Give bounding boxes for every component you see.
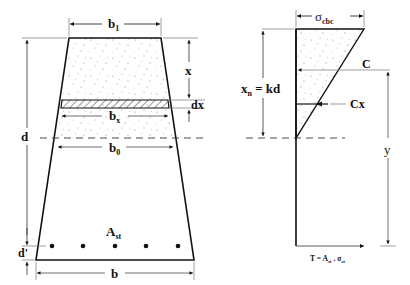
rebar-dot bbox=[113, 244, 118, 249]
stress-diagram: σcbc xn = kd C Cx y T = Ast . σst bbox=[241, 9, 396, 264]
label-y: y bbox=[384, 142, 391, 157]
label-xn-kd: xn = kd bbox=[241, 81, 281, 98]
label-dx: dx bbox=[191, 98, 204, 112]
label-c: C bbox=[362, 57, 371, 71]
label-b1: b1 bbox=[108, 16, 119, 33]
label-d: d bbox=[21, 129, 29, 144]
label-b0: b0 bbox=[109, 140, 120, 157]
rebar-dot bbox=[50, 244, 55, 249]
label-cx: Cx bbox=[350, 97, 365, 111]
label-b: b bbox=[111, 266, 118, 281]
label-tension: T = Ast . σst bbox=[310, 254, 345, 264]
rebar-dot bbox=[81, 244, 86, 249]
rebar-dot bbox=[144, 244, 149, 249]
compression-zone bbox=[57, 38, 173, 138]
stress-triangle bbox=[296, 29, 364, 138]
rebar-group bbox=[50, 244, 181, 249]
label-cover: d' bbox=[18, 246, 28, 260]
label-sigma-cbc: σcbc bbox=[315, 9, 334, 26]
section-drawing: b1 d d' x dx bx b0 Ast bbox=[18, 16, 205, 281]
label-ast: Ast bbox=[106, 224, 122, 241]
strip-dx bbox=[61, 100, 169, 108]
diagram-canvas: b1 d d' x dx bx b0 Ast bbox=[0, 0, 410, 285]
rebar-dot bbox=[176, 244, 181, 249]
label-x: x bbox=[185, 63, 192, 78]
